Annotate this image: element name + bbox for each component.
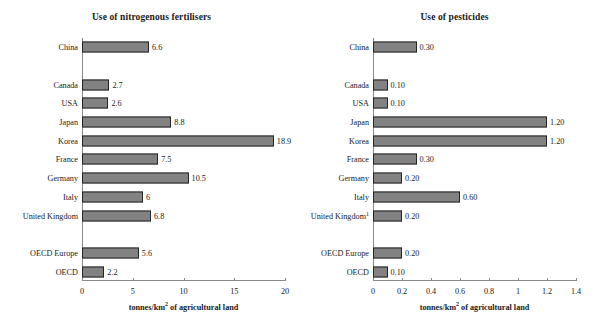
category-label-france: France [56, 155, 78, 164]
bar-value-china: 0.30 [420, 43, 434, 52]
bar-value-japan: 1.20 [550, 118, 564, 127]
bar-value-italy: 0.60 [463, 192, 477, 201]
x-tick-label: 0.4 [426, 287, 436, 296]
bar-row: OECD Europe5.6 [82, 244, 285, 263]
bar-value-canada: 2.7 [112, 80, 122, 89]
x-tick [184, 278, 185, 281]
category-label-oecd-europe: OECD Europe [321, 248, 369, 257]
bar-row: Korea1.20 [373, 131, 576, 150]
x-tick-label: 0 [80, 287, 84, 296]
bar-value-usa: 2.6 [111, 99, 121, 108]
x-tick-label: 0.8 [484, 287, 494, 296]
bar-germany [373, 173, 402, 184]
bar-value-oecd-europe: 5.6 [142, 248, 152, 257]
x-tick-label: 0.2 [397, 287, 407, 296]
bar-value-korea: 1.20 [550, 136, 564, 145]
x-tick-label: 1.2 [542, 287, 552, 296]
x-tick [518, 278, 519, 281]
category-label-united-kingdom: United Kingdom1 [311, 210, 369, 221]
bar-rows-right: China0.30Canada0.10USA0.10Japan1.20Korea… [373, 38, 576, 281]
bar-row: Korea18.9 [82, 131, 285, 150]
x-tick [133, 278, 134, 281]
category-label-france: France [347, 155, 369, 164]
bar-value-japan: 8.8 [174, 118, 184, 127]
bar-italy [82, 191, 143, 202]
category-label-germany: Germany [339, 174, 369, 183]
x-tick-label: 15 [230, 287, 238, 296]
footnote-marker: 1 [366, 210, 369, 216]
bar-korea [373, 135, 547, 146]
bar-canada [373, 79, 388, 90]
bar-row: China6.6 [82, 38, 285, 57]
category-label-italy: Italy [354, 192, 369, 201]
plot-area-right: China0.30Canada0.10USA0.10Japan1.20Korea… [373, 38, 576, 281]
bar-korea [82, 135, 274, 146]
category-label-china: China [349, 43, 369, 52]
bar-row: United Kingdom6.8 [82, 206, 285, 225]
bar-row [373, 225, 576, 244]
bar-row: Germany10.5 [82, 169, 285, 188]
x-axis-title-left-tail: of agricultural land [168, 303, 238, 312]
category-label-japan: Japan [350, 118, 369, 127]
chart-title-left: Use of nitrogenous fertilisers [0, 12, 303, 22]
bar-value-united-kingdom: 6.8 [154, 211, 164, 220]
bar-japan [373, 117, 547, 128]
bar-value-germany: 0.20 [405, 174, 419, 183]
bar-value-italy: 6 [146, 192, 150, 201]
bar-row: Japan1.20 [373, 113, 576, 132]
bar-row: USA2.6 [82, 94, 285, 113]
x-axis-title-left-base: tonnes/km [129, 303, 165, 312]
x-tick [576, 278, 577, 281]
bar-row: OECD0.10 [373, 262, 576, 281]
category-label-canada: Canada [53, 80, 78, 89]
bar-china [373, 42, 417, 53]
x-tick-label: 5 [131, 287, 135, 296]
bar-usa [373, 98, 388, 109]
bar-value-canada: 0.10 [391, 80, 405, 89]
x-tick-label: 0.6 [455, 287, 465, 296]
x-tick-label: 1 [516, 287, 520, 296]
bar-value-oecd: 2.2 [107, 267, 117, 276]
category-label-canada: Canada [344, 80, 369, 89]
bar-row [82, 57, 285, 76]
x-tick [373, 278, 374, 281]
x-tick [460, 278, 461, 281]
x-tick-label: 10 [179, 287, 187, 296]
bar-value-usa: 0.10 [391, 99, 405, 108]
bar-row: Canada2.7 [82, 75, 285, 94]
bar-italy [373, 191, 460, 202]
bar-row: United Kingdom10.20 [373, 206, 576, 225]
bar-row: China0.30 [373, 38, 576, 57]
x-tick [285, 278, 286, 281]
bar-row: Italy6 [82, 188, 285, 207]
bar-germany [82, 173, 189, 184]
bar-row: Italy0.60 [373, 188, 576, 207]
dual-bar-chart-figure: Use of nitrogenous fertilisers China6.6C… [0, 0, 606, 326]
bar-rows-left: China6.6Canada2.7USA2.6Japan8.8Korea18.9… [82, 38, 285, 281]
plot-area-left: China6.6Canada2.7USA2.6Japan8.8Korea18.9… [82, 38, 285, 281]
bar-oecd-europe [82, 247, 139, 258]
category-label-oecd: OECD [56, 267, 78, 276]
bar-row: France7.5 [82, 150, 285, 169]
bar-oecd [373, 266, 388, 277]
bar-value-china: 6.6 [152, 43, 162, 52]
bar-oecd [82, 266, 104, 277]
bar-row: OECD Europe0.20 [373, 244, 576, 263]
bar-united-kingdom [82, 210, 151, 221]
bar-canada [82, 79, 109, 90]
panel-nitrogenous-fertilisers: Use of nitrogenous fertilisers China6.6C… [0, 0, 303, 326]
category-label-oecd-europe: OECD Europe [30, 248, 78, 257]
bar-row: Germany0.20 [373, 169, 576, 188]
bar-value-korea: 18.9 [277, 136, 291, 145]
panel-pesticides: Use of pesticides China0.30Canada0.10USA… [303, 0, 606, 326]
bar-value-france: 0.30 [420, 155, 434, 164]
category-label-korea: Korea [349, 136, 369, 145]
category-label-japan: Japan [59, 118, 78, 127]
x-tick [82, 278, 83, 281]
bar-row [82, 225, 285, 244]
category-label-usa: USA [62, 99, 78, 108]
bar-china [82, 42, 149, 53]
bar-usa [82, 98, 108, 109]
bar-row: Japan8.8 [82, 113, 285, 132]
x-axis-title-right-base: tonnes/km [420, 303, 456, 312]
